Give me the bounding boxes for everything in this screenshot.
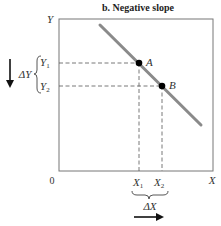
point-b-label: B — [169, 79, 176, 91]
delta-y-down-arrow-icon — [6, 59, 14, 88]
delta-x-right-arrow-icon — [134, 213, 164, 221]
y-axis-label: Y — [47, 13, 55, 25]
point-a-label: A — [145, 56, 153, 68]
delta-x-label: ΔX — [142, 200, 157, 212]
x2-label: X2 — [153, 176, 165, 190]
x1-label: X1 — [132, 176, 144, 190]
origin-label: 0 — [50, 175, 55, 186]
dashed-guides — [59, 63, 162, 171]
diagram-title: b. Negative slope — [102, 2, 175, 13]
plot-frame — [59, 19, 213, 171]
delta-y-label: ΔY — [18, 68, 33, 80]
point-a-marker — [136, 60, 143, 67]
delta-x-brace — [132, 191, 168, 199]
negative-slope-line — [100, 25, 201, 125]
point-b-marker — [159, 83, 166, 90]
y1-label: Y1 — [40, 56, 50, 70]
x-axis-label: X — [208, 174, 217, 186]
y2-label: Y2 — [40, 80, 50, 94]
negative-slope-diagram: b. Negative slope Y X 0 A B Y1 Y2 ΔY X1 … — [0, 0, 221, 226]
